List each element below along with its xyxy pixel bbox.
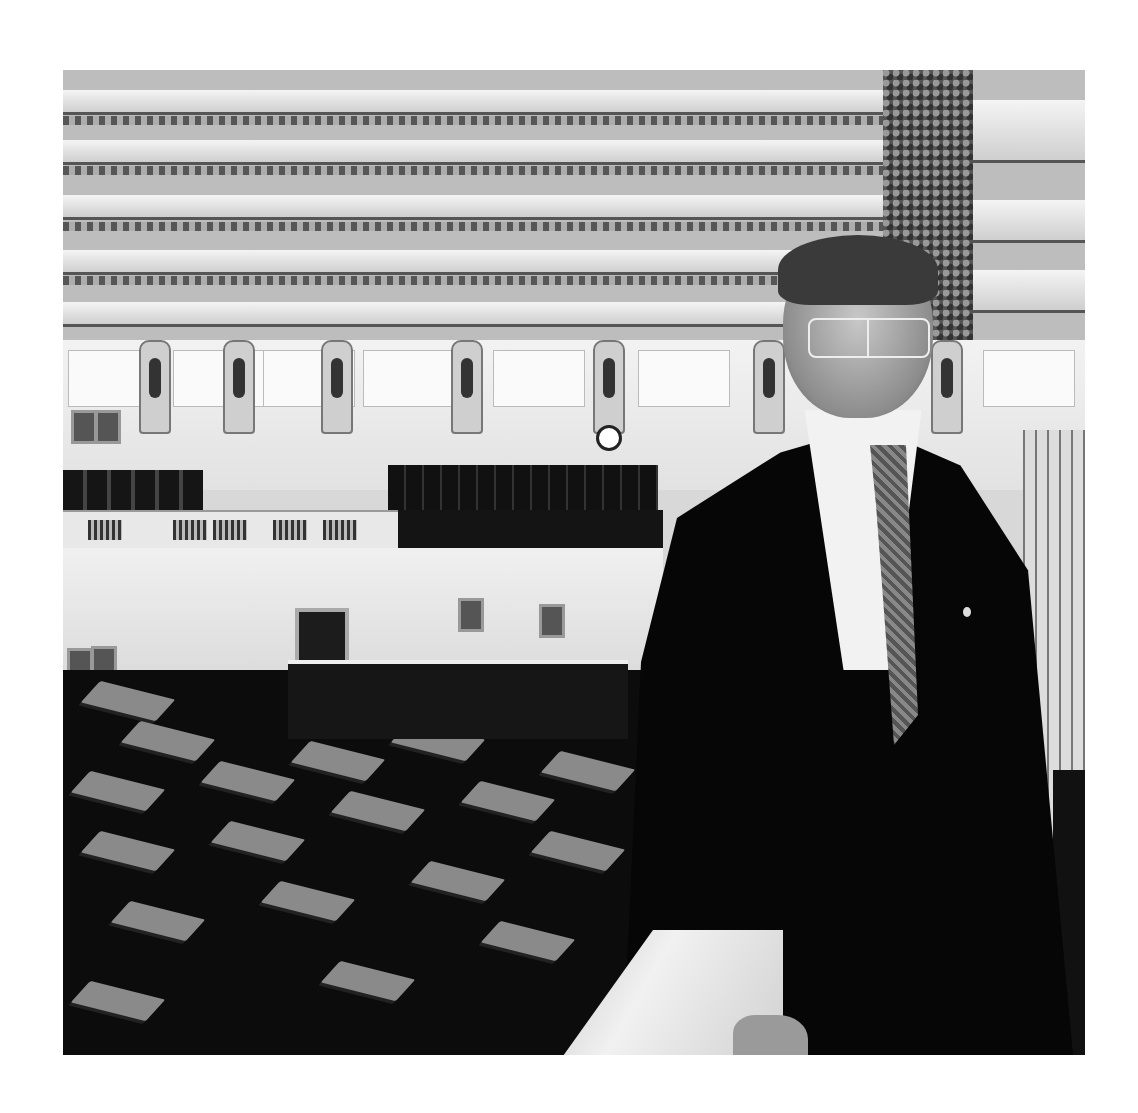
desk <box>81 831 176 871</box>
portrait-frame <box>458 598 484 632</box>
desk <box>201 761 296 801</box>
portrait-frame <box>539 604 565 638</box>
desk <box>291 741 386 781</box>
ceiling-beam <box>63 140 903 165</box>
coffered-ceiling <box>63 70 1085 340</box>
lapel-pin-icon <box>963 607 971 617</box>
ceiling-coffer <box>973 100 1085 163</box>
balcony-panel <box>273 520 307 540</box>
wall-ornament <box>593 340 625 434</box>
portrait-frame <box>95 410 121 444</box>
desk <box>261 881 356 921</box>
ceiling-beam <box>63 90 883 115</box>
clerestory-window <box>363 350 455 407</box>
ceiling-beam <box>63 195 913 220</box>
wall-ornament <box>321 340 353 434</box>
ceiling-frieze <box>63 222 913 231</box>
wall-ornament <box>139 340 171 434</box>
gallery-balcony-dark <box>398 510 663 550</box>
man-hair <box>778 235 938 305</box>
balcony-panel <box>88 520 122 540</box>
wall-ornament <box>931 340 963 434</box>
desk <box>111 901 206 941</box>
desk <box>331 791 426 831</box>
wall-clock-icon <box>596 425 622 451</box>
desk <box>211 821 306 861</box>
balcony-panel <box>173 520 207 540</box>
ceiling-coffer <box>973 270 1085 313</box>
wall-ornament <box>753 340 785 434</box>
wall-ornament <box>451 340 483 434</box>
desk <box>321 961 416 1001</box>
balcony-panel <box>213 520 247 540</box>
portrait-frame <box>71 410 97 444</box>
desk <box>71 771 166 811</box>
ceiling-frieze <box>63 166 903 175</box>
desk <box>481 921 576 961</box>
desk <box>121 721 216 761</box>
photograph <box>63 70 1085 1055</box>
ceiling-frieze <box>63 116 883 125</box>
clerestory-window <box>983 350 1075 407</box>
desk <box>71 981 166 1021</box>
glasses-icon <box>808 318 930 358</box>
desk <box>461 781 556 821</box>
ceiling-coffer <box>973 200 1085 243</box>
gallery-seating <box>63 470 203 512</box>
man-hand <box>733 1015 808 1055</box>
speaker-dais <box>288 660 628 739</box>
desk <box>531 831 626 871</box>
wall-ornament <box>223 340 255 434</box>
clerestory-window <box>638 350 730 407</box>
desk <box>81 681 176 721</box>
clerestory-window <box>493 350 585 407</box>
balcony-panel <box>323 520 357 540</box>
desk <box>541 751 636 791</box>
desk <box>411 861 506 901</box>
